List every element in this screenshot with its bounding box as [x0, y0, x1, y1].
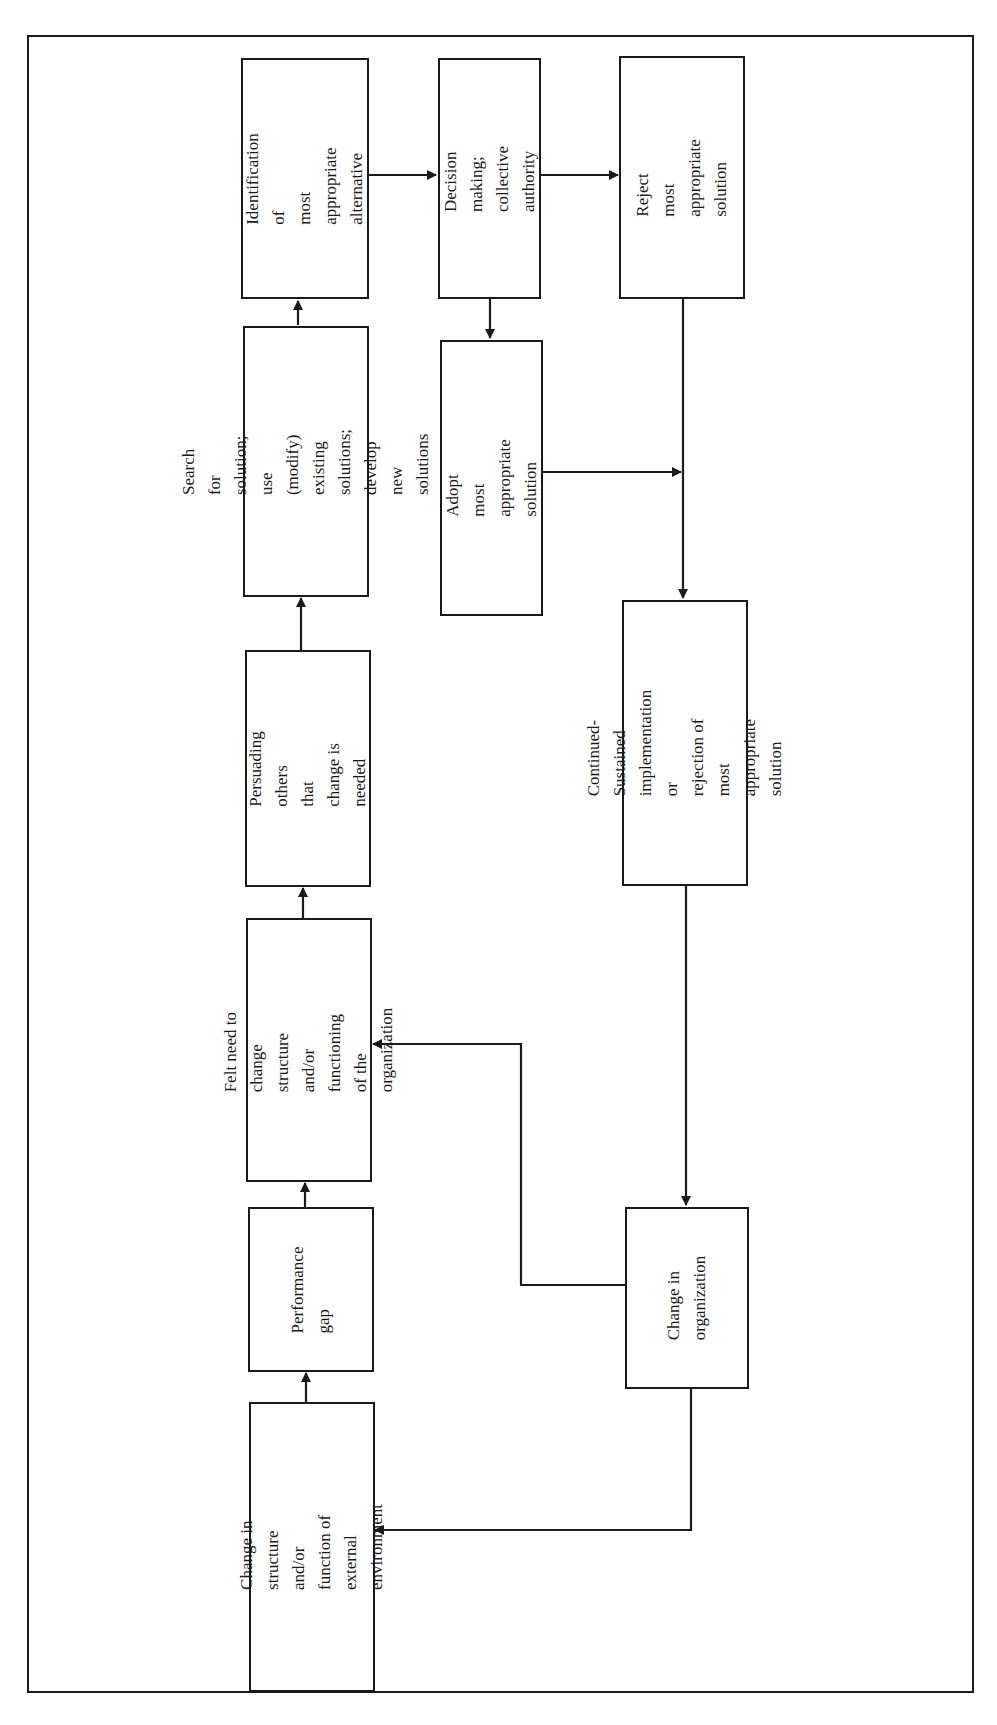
box-decision-making-label: Decision making; collective authority	[438, 145, 542, 211]
box-continued-implementation-label: Continued-Sustained implementation or re…	[581, 690, 789, 797]
box-identification: Identification of most appropriate alter…	[241, 58, 369, 299]
box-search-solution: Search for solution; use (modify) existi…	[243, 326, 369, 597]
box-change-in-organization: Change in organization	[625, 1207, 749, 1389]
box-identification-label: Identification of most appropriate alter…	[240, 133, 370, 225]
box-performance-gap: Performance gap	[248, 1207, 374, 1372]
box-felt-need: Felt need to change structure and/or fun…	[246, 918, 372, 1182]
box-reject-solution: Reject most appropriate solution	[619, 56, 745, 299]
box-search-solution-label: Search for solution; use (modify) existi…	[176, 428, 436, 494]
box-continued-implementation: Continued-Sustained implementation or re…	[622, 600, 748, 886]
box-external-environment-change-label: Change in structure and/or function of e…	[234, 1504, 390, 1590]
box-persuading-label: Persuading others that change is needed	[243, 731, 373, 807]
box-external-environment-change: Change in structure and/or function of e…	[249, 1402, 375, 1692]
box-felt-need-label: Felt need to change structure and/or fun…	[218, 1008, 400, 1093]
box-adopt-solution: Adopt most appropriate solution	[440, 340, 543, 616]
box-adopt-solution-label: Adopt most appropriate solution	[440, 439, 544, 516]
box-persuading: Persuading others that change is needed	[245, 650, 371, 887]
box-reject-solution-label: Reject most appropriate solution	[630, 139, 734, 216]
box-decision-making: Decision making; collective authority	[438, 58, 541, 299]
box-change-in-organization-label: Change in organization	[661, 1256, 713, 1341]
box-performance-gap-label: Performance gap	[285, 1246, 337, 1333]
